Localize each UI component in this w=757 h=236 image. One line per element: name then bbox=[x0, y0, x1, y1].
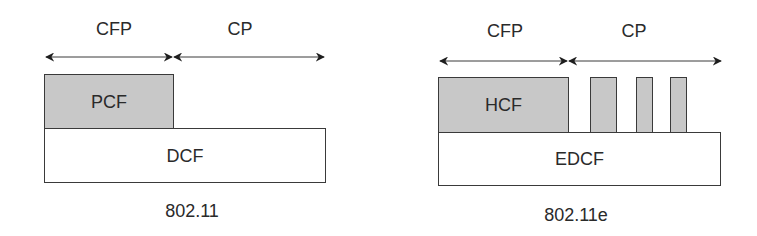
cp-label: CP bbox=[210, 19, 270, 39]
cfp-label: CFP bbox=[84, 19, 144, 39]
cp-burst-2 bbox=[636, 77, 653, 133]
cp-label: CP bbox=[604, 21, 664, 41]
pcf-box: PCF bbox=[44, 74, 174, 129]
cp-burst-3 bbox=[670, 77, 687, 133]
dcf-box: DCF bbox=[44, 128, 326, 183]
caption-80211: 802.11 bbox=[142, 201, 242, 221]
hcf-box: HCF bbox=[438, 77, 569, 133]
dcf-label: DCF bbox=[45, 145, 325, 166]
caption-80211e: 802.11e bbox=[526, 205, 626, 225]
cfp-label: CFP bbox=[475, 21, 535, 41]
edcf-box: EDCF bbox=[438, 132, 721, 186]
edcf-label: EDCF bbox=[439, 149, 720, 170]
hcf-label: HCF bbox=[439, 95, 568, 116]
cp-burst-1 bbox=[590, 77, 617, 133]
pcf-label: PCF bbox=[45, 91, 173, 112]
